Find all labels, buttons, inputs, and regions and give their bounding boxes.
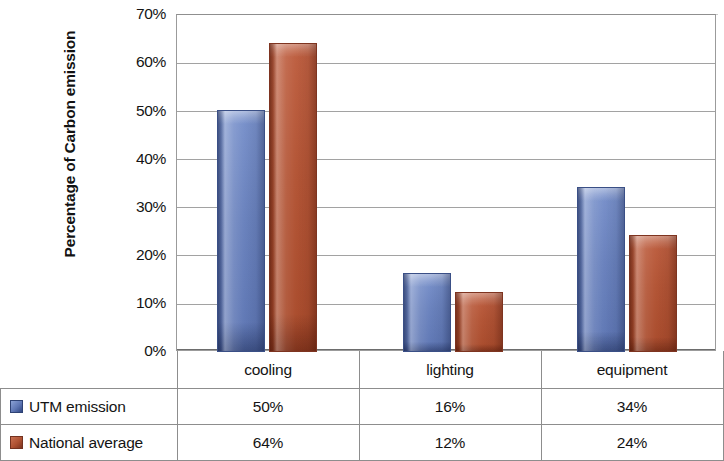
red-swatch-icon [10, 436, 23, 449]
category-header-cooling: cooling [177, 351, 359, 389]
bar-face [269, 43, 317, 352]
bar-utm-emission-equipment[interactable] [577, 187, 623, 350]
blue-swatch-icon [10, 400, 23, 413]
y-axis-title: Percentage of Carbon emission [61, 14, 79, 274]
y-tick-label: 30% [104, 198, 166, 216]
value-cell: 24% [541, 425, 723, 461]
bar-national-average-equipment[interactable] [629, 235, 675, 350]
table-row-national-average: National average 64% 12% 24% [1, 425, 724, 461]
bar-national-average-cooling[interactable] [269, 43, 315, 350]
value-cell: 34% [541, 389, 723, 425]
table-category-row: cooling lighting equipment [1, 351, 724, 389]
data-table: cooling lighting equipment UTM emission … [0, 351, 724, 461]
bar-utm-emission-cooling[interactable] [217, 110, 263, 350]
plot-area [176, 14, 716, 351]
bar-national-average-lighting[interactable] [455, 292, 501, 350]
bar-face [629, 235, 677, 352]
bar-utm-emission-lighting[interactable] [403, 273, 449, 350]
y-tick-label: 10% [104, 294, 166, 312]
bar-face [455, 292, 503, 352]
category-header-lighting: lighting [359, 351, 541, 389]
y-tick-label: 60% [104, 53, 166, 71]
bar-group-equipment [540, 15, 715, 350]
bar-face [217, 110, 265, 352]
y-axis-tick-labels: 70% 60% 50% 40% 30% 20% 10% 0% [104, 0, 166, 360]
legend-cell-national-average: National average [1, 425, 178, 461]
value-cell: 64% [177, 425, 359, 461]
bar-group-cooling [177, 15, 358, 350]
bar-groups [177, 15, 715, 350]
category-header-equipment: equipment [541, 351, 723, 389]
value-cell: 16% [359, 389, 541, 425]
series-label: UTM emission [29, 398, 126, 415]
bar-face [403, 273, 451, 352]
y-tick-label: 20% [104, 246, 166, 264]
value-cell: 12% [359, 425, 541, 461]
series-label: National average [29, 434, 143, 451]
table-row-utm-emission: UTM emission 50% 16% 34% [1, 389, 724, 425]
bar-face [577, 187, 625, 352]
legend-cell-utm-emission: UTM emission [1, 389, 178, 425]
y-tick-label: 50% [104, 102, 166, 120]
value-cell: 50% [177, 389, 359, 425]
bar-group-lighting [365, 15, 540, 350]
y-tick-label: 40% [104, 150, 166, 168]
y-tick-label: 70% [104, 5, 166, 23]
table-corner-cell [1, 351, 178, 389]
